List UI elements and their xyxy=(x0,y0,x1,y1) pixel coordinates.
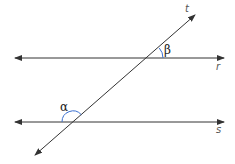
label-alpha: α xyxy=(60,101,68,113)
label-s: s xyxy=(216,125,221,135)
label-beta: β xyxy=(164,44,171,56)
line-t xyxy=(35,15,195,155)
angle-beta-arc xyxy=(159,48,163,58)
label-t: t xyxy=(185,4,189,14)
label-r: r xyxy=(216,62,220,72)
parallel-lines-diagram xyxy=(0,0,235,164)
